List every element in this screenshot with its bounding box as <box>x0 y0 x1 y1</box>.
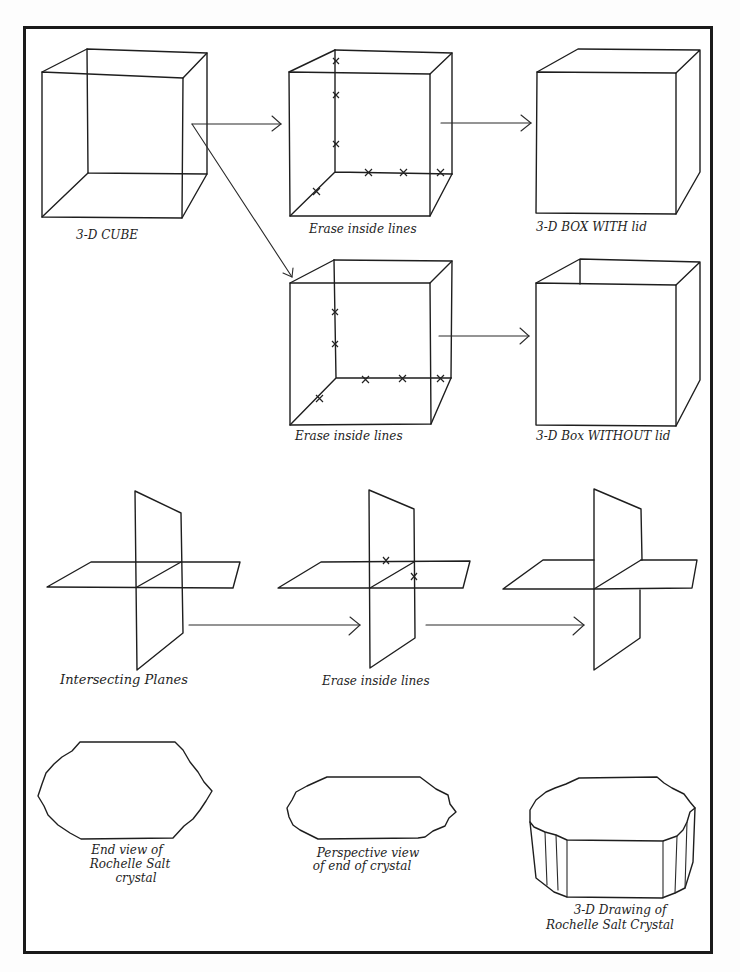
label-erase-inside-lines-bottom: Erase inside lines <box>295 430 403 443</box>
planes-erase <box>278 490 470 668</box>
label-erase-inside-lines-top: Erase inside lines <box>309 223 417 236</box>
label-box-with-lid: 3-D BOX WITH lid <box>536 221 647 234</box>
arrow-to-box-with-lid <box>441 115 531 131</box>
label-3d-drawing-line2: Rochelle Salt Crystal <box>546 919 674 932</box>
arrow-to-box-without-lid <box>439 328 529 344</box>
arrow-planes-to-erase <box>189 617 360 635</box>
label-3d-drawing-line1: 3-D Drawing of <box>574 904 667 917</box>
label-3d-cube: 3-D CUBE <box>76 229 138 242</box>
label-intersecting-planes: Intersecting Planes <box>60 673 188 686</box>
diagram-canvas <box>0 0 740 972</box>
label-perspective-line2: of end of crystal <box>313 860 412 873</box>
label-end-view-line2: Rochelle Salt <box>90 858 170 871</box>
box-without-lid <box>536 259 700 426</box>
label-box-without-lid: 3-D Box WITHOUT lid <box>536 430 670 443</box>
arrow-cube-to-erase-top <box>192 116 281 131</box>
box-with-lid <box>536 49 700 214</box>
arrow-cube-to-erase-bottom <box>192 124 293 277</box>
crystal-perspective-view <box>287 777 456 839</box>
cube-erase-bottom <box>290 260 452 425</box>
label-planes-erase-inside-lines: Erase inside lines <box>322 675 430 688</box>
planes-result <box>503 489 697 670</box>
cube-wireframe <box>42 49 207 218</box>
label-end-view-line3: crystal <box>115 872 156 885</box>
crystal-3d-drawing <box>530 777 695 898</box>
intersecting-planes <box>47 491 240 670</box>
label-end-view-line1: End view of <box>91 844 162 857</box>
crystal-end-view <box>38 742 212 839</box>
cube-erase-top <box>289 50 452 216</box>
arrow-planes-to-result <box>426 617 584 635</box>
